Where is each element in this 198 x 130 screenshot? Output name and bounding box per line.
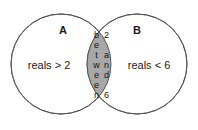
set-b-description: reals < 6 [114,59,184,71]
venn-diagram-canvas: A B reals > 2 reals < 6 between 2 and 6 [0,0,198,130]
set-b-label: B [122,24,152,36]
set-a-label: A [48,24,78,36]
set-a-description: reals > 2 [14,59,84,71]
